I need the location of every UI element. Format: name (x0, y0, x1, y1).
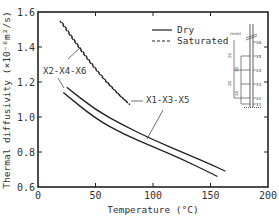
legend: Dry Saturated (152, 24, 228, 46)
specimen-inset: (mm) X6X5X4X3X2X1 20 20 20 20 (227, 24, 262, 108)
series-line (63, 93, 217, 177)
svg-text:20: 20 (227, 52, 232, 58)
legend-dry-label: Dry (177, 24, 194, 35)
annotation-leader-upper-dashed (68, 48, 80, 59)
legend-saturated-label: Saturated (177, 35, 228, 46)
x-tick-label: 100 (144, 190, 162, 201)
inset-position-label: X1 (256, 102, 262, 107)
x-axis-title: Temperature (°C) (107, 204, 199, 215)
annotation-leader-solid (147, 110, 163, 139)
x-tick-label: 0 (35, 190, 41, 201)
y-tick-label: 1.6 (17, 7, 35, 18)
inset-position-label: X4 (256, 68, 262, 73)
inset-unit-label: (mm) (230, 31, 241, 36)
x-tick-label: 150 (201, 190, 219, 201)
y-axis-title: Thermal diffusivity (×10⁻⁶m²/s) (1, 11, 12, 188)
svg-text:20: 20 (234, 90, 239, 96)
annotation-leader-upper-solid (58, 78, 64, 88)
chart-svg: 0501001502000.60.81.01.21.41.6 Temperatu… (0, 0, 279, 218)
inset-position-label: X2 (256, 96, 262, 101)
x-tick-label: 200 (259, 190, 277, 201)
x-tick-label: 50 (89, 190, 101, 201)
annotation-x1-x3-x5: X1-X3-X5 (146, 95, 189, 105)
annotation-x2-x4-x6: X2-X4-X6 (43, 66, 86, 76)
svg-text:20: 20 (234, 66, 239, 72)
y-tick-label: 0.8 (17, 147, 35, 158)
inset-position-label: X6 (256, 40, 262, 45)
y-tick-label: 1.2 (17, 77, 35, 88)
y-tick-label: 1.4 (17, 42, 35, 53)
svg-text:20: 20 (227, 80, 232, 86)
inset-position-label: X3 (256, 82, 262, 87)
y-tick-label: 1.0 (17, 112, 35, 123)
inset-position-label: X5 (256, 54, 262, 59)
y-tick-label: 0.6 (17, 182, 35, 193)
